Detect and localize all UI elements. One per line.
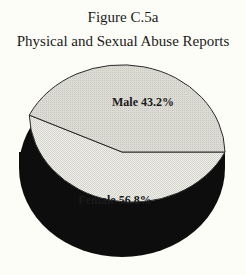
pie-chart: Male 43.2% Female 56.8%	[0, 0, 246, 275]
slice-label-male: Male 43.2%	[112, 95, 174, 109]
slice-label-female: Female 56.8%	[78, 193, 151, 207]
